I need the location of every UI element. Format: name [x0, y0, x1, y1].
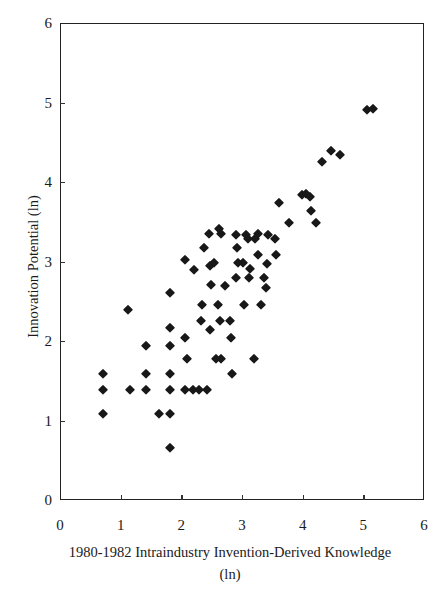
data-point — [244, 273, 254, 283]
data-point — [253, 249, 263, 259]
x-tick-label: 2 — [178, 518, 186, 533]
data-point — [197, 299, 207, 309]
scatter-plot-figure: 0123456 0123456 1980-1982 Intraindustry … — [0, 0, 442, 599]
data-point — [283, 218, 293, 228]
data-point — [274, 198, 284, 208]
y-tick-mark — [60, 182, 65, 183]
data-point — [165, 287, 175, 297]
y-tick-mark — [60, 262, 65, 263]
x-tick-mark — [303, 495, 304, 500]
data-point — [239, 299, 249, 309]
data-point — [201, 384, 211, 394]
data-point — [98, 384, 108, 394]
data-points-layer — [61, 24, 423, 499]
data-point — [230, 229, 240, 239]
x-tick-mark — [121, 495, 122, 500]
data-point — [335, 150, 345, 160]
data-point — [180, 333, 190, 343]
data-point — [232, 243, 242, 253]
data-point — [317, 157, 327, 167]
data-point — [226, 333, 236, 343]
data-point — [212, 299, 222, 309]
data-point — [165, 369, 175, 379]
data-point — [245, 264, 255, 274]
y-tick-mark — [60, 103, 65, 104]
data-point — [182, 354, 192, 364]
data-point — [306, 206, 316, 216]
data-point — [261, 283, 271, 293]
data-point — [249, 354, 259, 364]
data-point — [198, 243, 208, 253]
data-point — [220, 281, 230, 291]
data-point — [122, 305, 132, 315]
x-tick-mark — [181, 495, 182, 500]
data-point — [124, 384, 134, 394]
data-point — [154, 408, 164, 418]
plot-area — [60, 23, 424, 500]
data-point — [205, 325, 215, 335]
data-point — [98, 408, 108, 418]
data-point — [180, 255, 190, 265]
data-point — [311, 218, 321, 228]
data-point — [227, 369, 237, 379]
data-point — [368, 104, 378, 114]
data-point — [215, 315, 225, 325]
x-axis-title: 1980-1982 Intraindustry Invention-Derive… — [30, 541, 430, 585]
x-tick-label: 6 — [420, 518, 428, 533]
y-tick-label: 1 — [26, 413, 52, 428]
x-tick-mark — [242, 495, 243, 500]
x-axis-title-line1: 1980-1982 Intraindustry Invention-Derive… — [69, 544, 392, 560]
data-point — [256, 299, 266, 309]
x-tick-label: 1 — [117, 518, 125, 533]
data-point — [216, 354, 226, 364]
y-tick-mark — [60, 421, 65, 422]
data-point — [206, 280, 216, 290]
y-tick-label: 6 — [26, 16, 52, 31]
y-tick-label: 0 — [26, 493, 52, 508]
data-point — [224, 315, 234, 325]
data-point — [204, 229, 214, 239]
x-axis-title-line2: (ln) — [30, 563, 430, 585]
x-tick-label: 5 — [360, 518, 368, 533]
data-point — [165, 443, 175, 453]
data-point — [262, 259, 272, 269]
data-point — [98, 369, 108, 379]
y-tick-label: 5 — [26, 95, 52, 110]
x-tick-label: 3 — [238, 518, 246, 533]
data-point — [141, 369, 151, 379]
y-axis-title: Innovation Potential (ln) — [25, 162, 42, 372]
data-point — [141, 384, 151, 394]
data-point — [165, 408, 175, 418]
x-tick-label: 0 — [56, 518, 64, 533]
data-point — [189, 265, 199, 275]
data-point — [259, 273, 269, 283]
data-point — [326, 146, 336, 156]
data-point — [165, 322, 175, 332]
data-point — [165, 341, 175, 351]
x-tick-mark — [363, 495, 364, 500]
y-tick-mark — [60, 341, 65, 342]
x-tick-label: 4 — [299, 518, 307, 533]
data-point — [165, 384, 175, 394]
data-point — [195, 315, 205, 325]
data-point — [230, 273, 240, 283]
data-point — [141, 341, 151, 351]
data-point — [271, 249, 281, 259]
